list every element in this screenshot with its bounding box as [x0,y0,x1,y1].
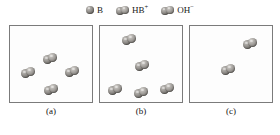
sphere-icon [121,6,129,14]
panel-c: (c) [189,25,273,103]
panel-b: (b) [99,25,183,103]
panel-caption-a: (a) [9,106,93,116]
molecule-pair [134,87,148,98]
molecule-pair [221,64,235,75]
molecule-pair [21,67,35,78]
molecule-pair [108,84,122,95]
legend-item-hb: HB+ [116,3,148,17]
sphere-icon [49,84,58,93]
legend-label: HB+ [132,6,148,15]
sphere-pair-icon [116,6,129,15]
molecule-pair [243,38,257,49]
panel-a: (a) [9,25,93,103]
panel-row: (a) (b) (c) [0,25,280,135]
sphere-icon [165,83,174,92]
molecule-pair [122,34,136,45]
sphere-icon [127,34,136,43]
sphere-icon [86,6,94,14]
molecule-pair [44,84,58,95]
molecule-pair [65,66,79,77]
particle-box-b [99,25,183,103]
panel-caption-c: (c) [189,106,273,116]
legend-label: B [97,6,103,15]
particle-box-a [9,25,93,103]
legend-item-oh: OH− [161,3,194,17]
legend-label: OH− [177,6,194,15]
sphere-icon [139,87,148,96]
sphere-icon [248,38,257,47]
sphere-icon [26,67,35,76]
legend-item-b: B [86,3,103,17]
molecule-pair [43,53,57,64]
sphere-icon [48,53,57,62]
sphere-icon [113,84,122,93]
panel-caption-b: (b) [99,106,183,116]
sphere-icon [140,60,149,69]
legend: BHB+OH− [0,2,280,18]
legend-label-charge: + [145,3,149,10]
molecule-pair [160,83,174,94]
legend-label-charge: − [190,3,194,10]
sphere-pair-icon [161,6,174,15]
particle-box-c [189,25,273,103]
sphere-icon [70,66,79,75]
molecule-pair [135,60,149,71]
sphere-icon [226,64,235,73]
sphere-icon [166,6,174,14]
